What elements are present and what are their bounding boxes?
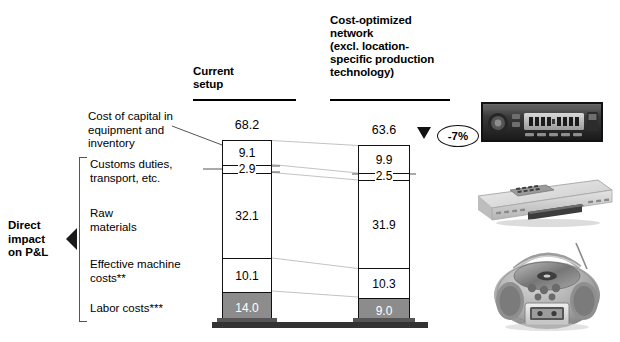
left-bar-segment-machine-costs: 10.1 [223,259,271,292]
left-bar-segment-labor-costs-value: 14.0 [235,301,258,315]
right-bar-segment-raw-materials: 31.9 [359,181,409,269]
right-bar-segment-labor-costs-value: 9.0 [376,304,393,318]
delta-badge: -7% [437,125,479,147]
left-bar-segment-raw-materials-value: 32.1 [235,209,258,223]
left-bar-segment-cost-of-capital-value: 9.1 [239,146,256,160]
right-bar-segment-cost-of-capital-value: 9.9 [376,153,393,167]
left-bar-segment-raw-materials: 32.1 [223,174,271,259]
chart-baseline [212,322,428,328]
car-stereo-photo [481,100,603,144]
left-bar-segment-customs: 2.9 [223,166,271,174]
right-bar-segment-machine-costs: 10.3 [359,269,409,298]
right-bar-segment-raw-materials-value: 31.9 [372,218,395,232]
dvd-player-photo [470,168,615,228]
right-bar: 9.9 2.5 31.9 10.3 9.0 [358,145,410,322]
left-bar-segment-machine-costs-value: 10.1 [235,269,258,283]
right-bar-total: 63.6 [358,123,410,137]
right-bar-segment-machine-costs-value: 10.3 [372,277,395,291]
boombox-photo [492,235,602,331]
left-bar-total: 68.2 [222,118,272,132]
delta-down-arrow-icon [417,127,431,139]
slide-canvas: Current setup Cost-optimized network (ex… [0,0,620,342]
right-bar-segment-customs: 2.5 [359,174,409,181]
left-bar: 9.1 2.9 32.1 10.1 14.0 [222,140,272,322]
delta-badge-value: -7% [448,130,468,142]
